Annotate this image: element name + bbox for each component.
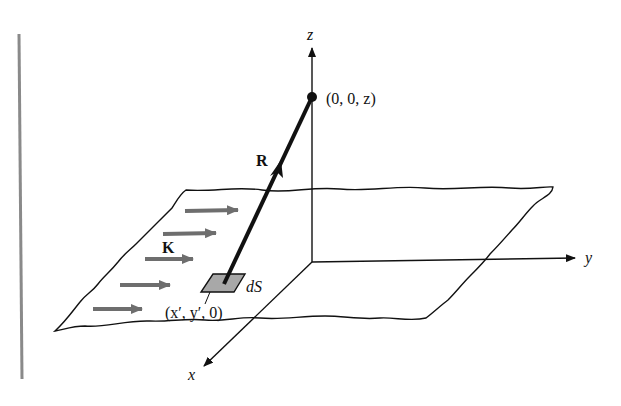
z-axis-label: z — [306, 26, 314, 43]
dS-leader-line — [205, 292, 210, 304]
surface-current-label: K — [162, 239, 175, 256]
field-point-dot — [307, 92, 317, 102]
surface-element-label: dS — [246, 278, 262, 295]
vector-R-label: R — [256, 152, 268, 169]
x-axis-label: x — [187, 366, 195, 383]
surface-current-diagram: z y x (0, 0, z) R K dS (x′, y′, 0) — [0, 0, 621, 406]
field-point-label: (0, 0, z) — [326, 90, 376, 108]
y-axis — [312, 258, 575, 262]
y-axis-label: y — [583, 249, 593, 267]
margin-bar — [19, 34, 22, 379]
source-point-label: (x′, y′, 0) — [165, 304, 223, 322]
surface-current-arrows — [93, 210, 238, 309]
